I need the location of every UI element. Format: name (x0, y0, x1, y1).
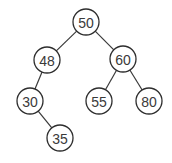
binary-tree-diagram: 50486030558035 (0, 0, 172, 163)
node-label: 60 (115, 52, 131, 68)
edge-48-30 (35, 72, 42, 89)
tree-node-48: 48 (34, 47, 60, 73)
node-label: 35 (52, 131, 68, 147)
edge-60-80 (130, 70, 142, 90)
tree-node-30: 30 (17, 88, 43, 114)
node-label: 50 (78, 15, 94, 31)
tree-node-50: 50 (73, 9, 99, 35)
tree-node-55: 55 (86, 88, 112, 114)
node-label: 55 (91, 94, 107, 110)
node-label: 48 (39, 53, 55, 69)
tree-node-35: 35 (47, 125, 73, 151)
node-label: 80 (141, 94, 157, 110)
node-label: 30 (22, 94, 38, 110)
tree-node-80: 80 (136, 88, 162, 114)
edge-60-55 (105, 70, 116, 89)
edge-50-48 (56, 31, 76, 51)
tree-node-60: 60 (110, 46, 136, 72)
edge-30-35 (38, 111, 52, 128)
edge-50-60 (95, 31, 114, 50)
tree-edges (35, 31, 142, 128)
